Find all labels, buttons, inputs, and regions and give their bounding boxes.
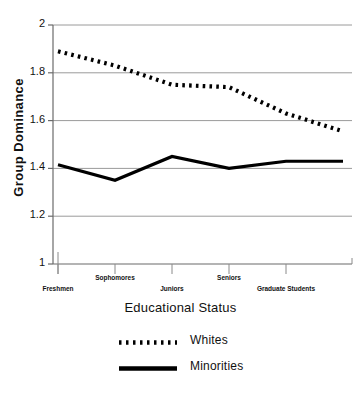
chart-legend: Whites Minorities — [0, 330, 361, 382]
y-tick-label: 2 — [19, 17, 45, 29]
y-tick-label: 1.6 — [19, 113, 45, 125]
y-tick-label: 1 — [19, 256, 45, 268]
x-tick-label: Seniors — [169, 274, 289, 281]
legend-swatch-dotted — [118, 339, 178, 346]
legend-label-minorities: Minorities — [190, 359, 243, 373]
x-tick-label: Graduate Students — [226, 285, 346, 292]
x-tick-label: Freshmen — [0, 285, 118, 292]
legend-item-whites: Whites — [0, 330, 361, 356]
legend-swatch-solid — [118, 365, 178, 372]
legend-label-whites: Whites — [190, 333, 228, 347]
y-tick-label: 1.8 — [19, 65, 45, 77]
x-tick-label: Juniors — [112, 285, 232, 292]
legend-item-minorities: Minorities — [0, 356, 361, 382]
y-tick-label: 1.2 — [19, 208, 45, 220]
x-axis-title: Educational Status — [0, 300, 361, 315]
chart-figure: Group Dominance Educational Status White… — [0, 0, 361, 402]
y-tick-label: 1.4 — [19, 160, 45, 172]
x-tick-label: Sophomores — [55, 274, 175, 281]
series-line-whites — [58, 51, 343, 131]
